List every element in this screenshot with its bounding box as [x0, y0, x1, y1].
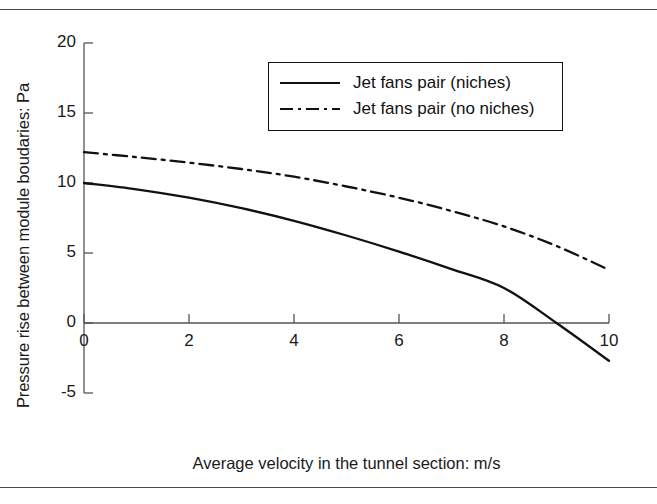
- legend-label-niches: Jet fans pair (niches): [353, 73, 511, 93]
- y-tick-label-5: 5: [36, 242, 76, 262]
- x-tick-label-8: 8: [484, 331, 524, 351]
- series-line-1: [84, 152, 609, 270]
- figure-container: 20 15 10 5 0 -5 0 2 4 6 8 10 Pressure ri…: [0, 0, 657, 504]
- x-tick-label-6: 6: [379, 331, 419, 351]
- legend-item-no-niches: Jet fans pair (no niches): [279, 96, 552, 122]
- legend-label-no-niches: Jet fans pair (no niches): [353, 99, 534, 119]
- figure-top-rule: [0, 9, 657, 10]
- y-tick-label-15: 15: [36, 102, 76, 122]
- solid-line-icon: [279, 76, 341, 90]
- legend-item-niches: Jet fans pair (niches): [279, 70, 552, 96]
- x-tick-label-4: 4: [274, 331, 314, 351]
- y-tick-label-0: 0: [36, 312, 76, 332]
- y-tick-label-10: 10: [36, 172, 76, 192]
- x-tick-label-10: 10: [589, 331, 629, 351]
- y-axis-title: Pressure rise between module boudaries: …: [14, 31, 33, 461]
- x-axis-title: Average velocity in the tunnel section: …: [84, 454, 609, 473]
- plot-area: 20 15 10 5 0 -5 0 2 4 6 8 10 Pressure ri…: [0, 14, 657, 484]
- x-tick-label-2: 2: [169, 331, 209, 351]
- y-tick-label-20: 20: [36, 32, 76, 52]
- figure-bottom-rule: [0, 487, 657, 488]
- chart-legend: Jet fans pair (niches) Jet fans pair (no…: [268, 62, 563, 131]
- x-tick-label-0: 0: [64, 331, 104, 351]
- series-line-0: [84, 183, 609, 361]
- dashdot-line-icon: [279, 102, 341, 116]
- y-tick-label-minus5: -5: [36, 382, 76, 402]
